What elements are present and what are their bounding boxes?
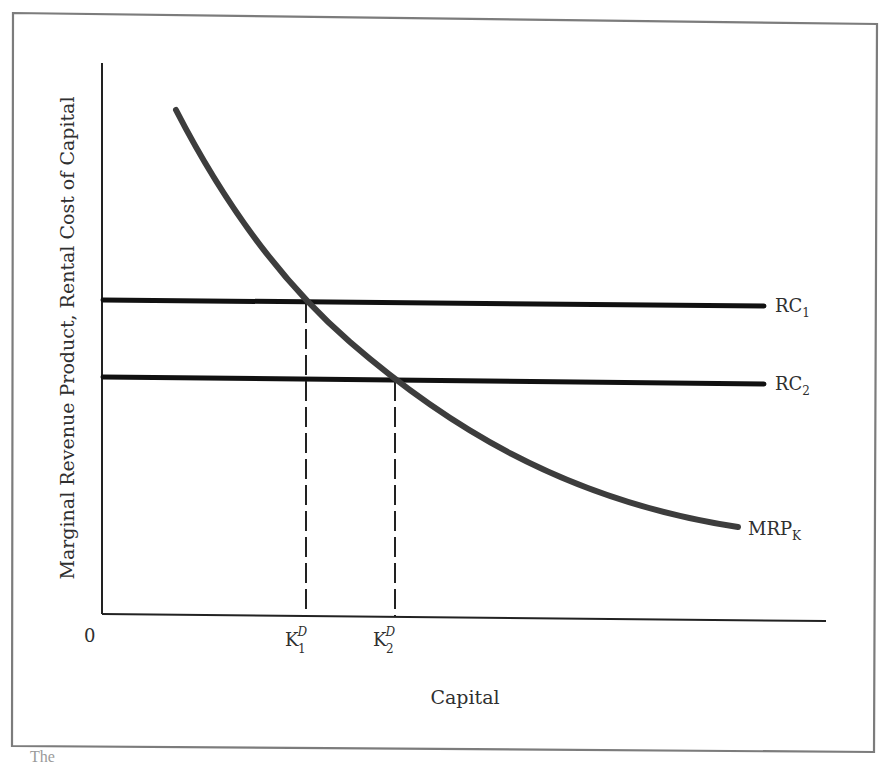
x-axis (102, 614, 826, 621)
caption-fragment: The (30, 748, 55, 762)
x-axis-title: Capital (430, 686, 499, 708)
mrp-curve (176, 110, 738, 527)
rc1-label: RC1 (775, 295, 810, 320)
mrp-label: MRPK (748, 518, 802, 543)
rc2-line (103, 377, 764, 384)
k1-label: KD1 (285, 625, 307, 656)
k2-label: KD2 (373, 625, 395, 656)
rc1-line (103, 300, 764, 306)
origin-label: 0 (84, 625, 95, 646)
figure: RC1 RC2 MRPK 0 KD1 KD2 Capital Marginal … (0, 0, 885, 762)
y-axis-title: Marginal Revenue Product, Rental Cost of… (56, 96, 78, 579)
rc2-label: RC2 (775, 373, 810, 398)
